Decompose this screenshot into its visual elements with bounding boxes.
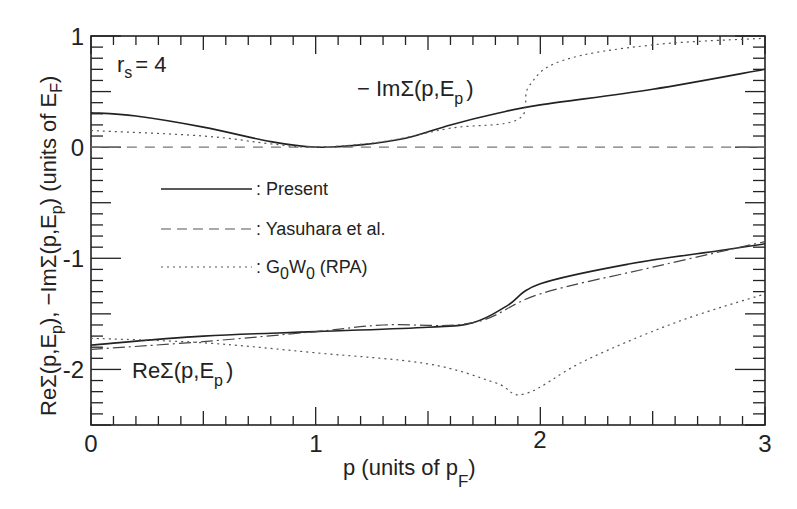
y-tick-1: 1 [71,23,84,50]
y-tick-0: 0 [71,134,84,161]
x-axis-label: p (units of pF) [343,455,476,491]
self-energy-chart: 1 0 -1 -2 0 1 2 3 p (units of pF) ReΣ(p,… [0,0,797,509]
legend-label-g0w0: : G0W0 (RPA) [256,257,368,282]
curve-re-present [91,244,765,345]
rs-annotation: rs= 4 [117,52,167,81]
y-tick-m2: -2 [63,356,84,383]
y-tick-labels: 1 0 -1 -2 [63,23,84,383]
legend-label-present: : Present [256,179,328,199]
x-tick-3: 3 [758,430,771,457]
legend-label-yasuhara: : Yasuhara et al. [256,219,385,239]
y-axis-label: ReΣ(p,Ep), −ImΣ(p,Ep) (units of EF) [36,76,65,416]
x-tick-1: 1 [309,430,322,457]
y-tick-m1: -1 [63,245,84,272]
x-tick-0: 0 [84,430,97,457]
x-tick-2: 2 [533,426,546,453]
x-tick-labels: 0 1 2 3 [84,426,771,457]
legend: : Present : Yasuhara et al. : G0W0 (RPA) [161,179,385,282]
im-curve-label: − ImΣ(p,Ep) [357,76,474,107]
re-curve-label: ReΣ(p,Ep) [132,358,233,389]
